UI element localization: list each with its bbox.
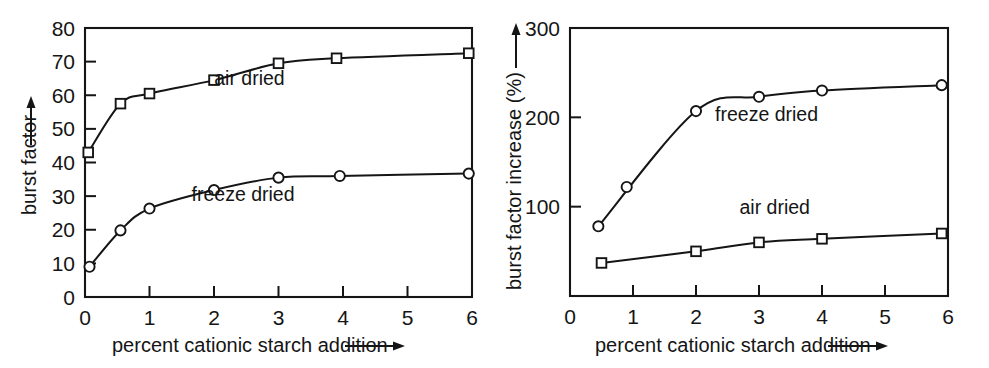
chart-panel-right: burst factor increase (%) 100200300 0123… [495,0,989,368]
y-tick-label-300: 300 [525,17,560,40]
data-point-air-dried-1 [116,99,126,109]
y-axis-arrow-head-right [512,23,521,35]
data-point-air-dried-2 [145,89,155,99]
y-axis-arrow-head-left [27,96,36,108]
chart-panel-left: burst factor 01020304050607080 0123456 a… [0,0,494,368]
x-tick-label-2: 2 [208,306,220,329]
x-axis-ticks-right [633,285,885,296]
data-point-freeze-dried-1 [622,182,632,192]
y-tick-label-80: 80 [52,17,75,40]
y-axis-label-right: burst factor increase (%) [503,23,525,290]
series-annotations-left: air driedfreeze dried [192,67,295,205]
x-axis-tick-labels-right: 0123456 [564,305,954,328]
x-axis-arrow-head-right [876,342,888,351]
y-tick-label-100: 100 [525,195,560,218]
curve-air-dried [602,233,942,262]
x-tick-label-4: 4 [816,305,828,328]
data-point-freeze-dried-3 [754,92,764,102]
data-point-air-dried-4 [937,229,947,239]
y-axis-tick-labels-right: 100200300 [525,17,560,219]
y-axis-label-text-left: burst factor [18,115,40,215]
plot-frame-right [570,28,948,296]
data-point-air-dried-0 [83,148,93,158]
x-axis-tick-labels-left: 0123456 [79,306,478,329]
data-point-air-dried-3 [817,234,827,244]
data-point-air-dried-0 [597,258,607,268]
y-tick-label-30: 30 [52,185,75,208]
y-tick-label-0: 0 [63,286,75,309]
y-tick-label-200: 200 [525,106,560,129]
x-tick-label-6: 6 [466,306,478,329]
x-axis-label-right: percent cationic starch addition [595,334,888,356]
data-point-freeze-dried-5 [335,171,345,181]
data-point-air-dried-6 [464,48,474,58]
data-point-air-dried-5 [332,53,342,63]
x-tick-label-3: 3 [753,305,765,328]
x-tick-label-0: 0 [79,306,91,329]
y-tick-label-10: 10 [52,252,75,275]
x-tick-label-3: 3 [273,306,285,329]
data-point-freeze-dried-6 [464,168,474,178]
data-point-freeze-dried-4 [273,173,283,183]
x-tick-label-5: 5 [879,305,891,328]
y-tick-label-40: 40 [52,151,75,174]
series-label-air-dried: air dried [214,67,284,89]
data-point-air-dried-1 [691,247,701,257]
x-axis-ticks-left [150,286,408,297]
figure-container: burst factor 01020304050607080 0123456 a… [0,0,989,368]
x-tick-label-4: 4 [337,306,349,329]
series-label-air-dried: air dried [740,196,810,218]
data-point-freeze-dried-0 [84,262,94,272]
y-axis-ticks-left [85,62,96,264]
y-tick-label-20: 20 [52,218,75,241]
data-point-freeze-dried-2 [691,106,701,116]
data-point-freeze-dried-1 [115,225,125,235]
series-annotations-right: freeze driedair dried [715,103,818,218]
x-axis-arrow-head-left [393,342,405,351]
x-tick-label-6: 6 [942,305,954,328]
y-tick-label-70: 70 [52,50,75,73]
data-point-freeze-dried-4 [817,85,827,95]
x-tick-label-1: 1 [144,306,156,329]
data-point-freeze-dried-0 [593,221,603,231]
data-point-air-dried-2 [754,238,764,248]
chart-svg-right: burst factor increase (%) 100200300 0123… [495,0,989,368]
y-axis-label-left: burst factor [18,96,40,215]
y-axis-tick-labels-left: 01020304050607080 [52,17,75,309]
y-axis-label-text-right: burst factor increase (%) [503,72,525,290]
y-tick-label-50: 50 [52,117,75,140]
y-axis-ticks-right [570,117,581,206]
y-tick-label-60: 60 [52,84,75,107]
series-label-freeze-dried: freeze dried [192,183,295,205]
data-point-freeze-dried-2 [144,203,154,213]
x-tick-label-5: 5 [402,306,414,329]
chart-svg-left: burst factor 01020304050607080 0123456 a… [0,0,494,368]
plot-border-right [570,28,948,296]
series-label-freeze-dried: freeze dried [715,103,818,125]
x-tick-label-1: 1 [627,305,639,328]
x-tick-label-0: 0 [564,305,576,328]
x-tick-label-2: 2 [690,305,702,328]
x-axis-label-left: percent cationic starch addition [112,334,405,356]
data-point-freeze-dried-5 [937,80,947,90]
